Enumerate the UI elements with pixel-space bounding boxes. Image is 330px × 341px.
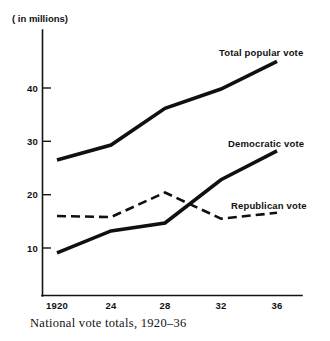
x-tick-label-24: 24	[106, 300, 117, 311]
y-tick-label-40: 40	[27, 83, 38, 94]
series-label-total-popular-vote: Total popular vote	[219, 47, 303, 58]
vote-totals-line-chart: 40 30 20 10 ( in millions) 1920 24 28 32…	[0, 0, 330, 341]
x-tick-label-28: 28	[160, 300, 171, 311]
y-tick-label-30: 30	[27, 136, 38, 147]
x-tick-label-1920: 1920	[46, 300, 68, 311]
x-tick-label-36: 36	[272, 300, 283, 311]
chart-canvas: 40 30 20 10 ( in millions) 1920 24 28 32…	[0, 0, 330, 341]
series-label-republican-vote: Republican vote	[231, 200, 307, 211]
chart-caption: National vote totals, 1920–36	[30, 316, 187, 331]
y-tick-label-10: 10	[27, 243, 38, 254]
y-tick-label-20: 20	[27, 189, 38, 200]
series-label-democratic-vote: Democratic vote	[228, 138, 304, 149]
x-tick-label-32: 32	[216, 300, 227, 311]
y-axis-unit-label: ( in millions)	[12, 13, 68, 24]
